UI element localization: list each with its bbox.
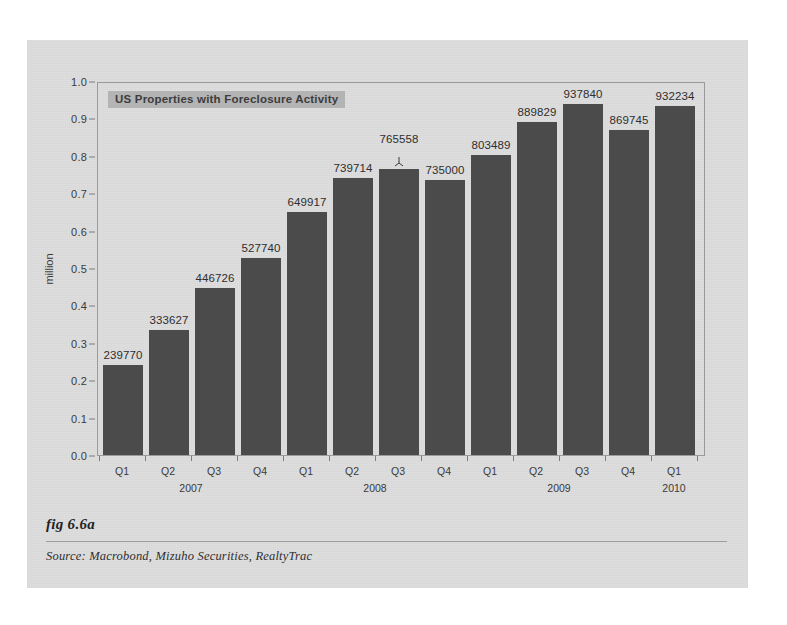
y-tick-mark <box>89 156 95 157</box>
bar-slot: 932234 <box>655 81 695 455</box>
bar-value-label: 527740 <box>242 242 281 254</box>
y-tick-mark <box>89 82 95 83</box>
chart-plot-frame: 2397703336274467265277406499177397147655… <box>97 82 705 456</box>
x-tick-mark <box>283 456 284 461</box>
x-tick-mark <box>605 456 606 461</box>
bar-value-label: 739714 <box>334 162 373 174</box>
bar[interactable] <box>103 365 143 455</box>
x-tick-mark <box>329 456 330 461</box>
y-tick-mark <box>89 269 95 270</box>
bar-slot: 333627 <box>149 81 189 455</box>
y-tick-mark <box>89 194 95 195</box>
bar[interactable] <box>471 155 511 456</box>
bar-slot: 803489 <box>471 81 511 455</box>
bar-slot: 649917 <box>287 81 327 455</box>
x-axis-year-label: 2009 <box>547 482 570 494</box>
bar-value-label: 803489 <box>472 139 511 151</box>
x-axis: Q1Q2Q3Q4Q1Q2Q3Q4Q1Q2Q3Q4Q120072008200920… <box>97 456 705 516</box>
bar-slot: 869745 <box>609 81 649 455</box>
source-line: Source: Macrobond, Mizuho Securities, Re… <box>46 549 312 564</box>
y-tick-label: 0.0 <box>71 450 87 462</box>
x-tick-mark <box>375 456 376 461</box>
x-tick-mark <box>191 456 192 461</box>
bar-slot: 765558 <box>379 81 419 455</box>
bar-value-label: 333627 <box>150 314 189 326</box>
bar[interactable] <box>655 106 695 455</box>
x-tick-label-quarter: Q1 <box>483 465 497 477</box>
bar-value-label: 239770 <box>104 349 143 361</box>
x-tick-label-quarter: Q3 <box>391 465 405 477</box>
x-tick-mark <box>421 456 422 461</box>
figure-page: million 0.00.10.20.30.40.50.60.70.80.91.… <box>27 40 748 588</box>
bar-slot: 446726 <box>195 81 235 455</box>
y-tick-mark <box>89 119 95 120</box>
x-tick-label-quarter: Q1 <box>299 465 313 477</box>
x-tick-label-quarter: Q4 <box>621 465 635 477</box>
chart-title-legend: US Properties with Foreclosure Activity <box>108 91 345 108</box>
x-tick-label-quarter: Q2 <box>161 465 175 477</box>
bar-value-label: 932234 <box>656 90 695 102</box>
x-tick-mark <box>651 456 652 461</box>
y-tick-label: 0.2 <box>71 375 87 387</box>
x-tick-mark <box>513 456 514 461</box>
x-tick-mark <box>145 456 146 461</box>
x-tick-mark <box>559 456 560 461</box>
bar-value-label: 649917 <box>288 196 327 208</box>
bar[interactable] <box>149 330 189 455</box>
y-tick-label: 0.4 <box>71 300 87 312</box>
x-axis-year-label: 2007 <box>179 482 202 494</box>
bar[interactable] <box>517 122 557 455</box>
bar-slot: 527740 <box>241 81 281 455</box>
y-tick-label: 0.9 <box>71 113 87 125</box>
y-tick-mark <box>89 306 95 307</box>
bar[interactable] <box>425 180 465 455</box>
x-tick-mark <box>99 456 100 461</box>
x-axis-year-label: 2010 <box>662 482 685 494</box>
figure-label: fig 6.6a <box>46 516 95 533</box>
bar-value-label: 869745 <box>610 114 649 126</box>
bar-value-label: 889829 <box>518 106 557 118</box>
x-tick-label-quarter: Q4 <box>437 465 451 477</box>
bar-slot: 739714 <box>333 81 373 455</box>
x-tick-label-quarter: Q2 <box>529 465 543 477</box>
bar[interactable] <box>609 130 649 455</box>
x-axis-year-label: 2008 <box>363 482 386 494</box>
y-tick-mark <box>89 381 95 382</box>
x-tick-label-quarter: Q3 <box>207 465 221 477</box>
x-tick-label-quarter: Q4 <box>253 465 267 477</box>
caption-divider <box>46 541 727 542</box>
y-tick-mark <box>89 418 95 419</box>
bar-slot: 889829 <box>517 81 557 455</box>
plot-area: 2397703336274467265277406499177397147655… <box>98 83 704 455</box>
y-tick-mark <box>89 343 95 344</box>
bar[interactable] <box>333 178 373 455</box>
bar-value-label: 765558 <box>380 133 419 145</box>
x-tick-label-quarter: Q2 <box>345 465 359 477</box>
x-tick-mark <box>237 456 238 461</box>
y-tick-mark <box>89 231 95 232</box>
bar[interactable] <box>241 258 281 455</box>
x-tick-mark <box>697 456 698 461</box>
bar-value-label: 735000 <box>426 164 465 176</box>
y-tick-label: 0.8 <box>71 151 87 163</box>
leader-pointer-icon <box>394 157 405 167</box>
bar[interactable] <box>287 212 327 455</box>
x-tick-mark <box>467 456 468 461</box>
bar[interactable] <box>195 288 235 455</box>
y-tick-label: 0.1 <box>71 413 87 425</box>
bar-slot: 937840 <box>563 81 603 455</box>
y-axis: million 0.00.10.20.30.40.50.60.70.80.91.… <box>27 82 97 456</box>
bar-value-label: 446726 <box>196 272 235 284</box>
y-tick-label: 1.0 <box>71 76 87 88</box>
y-tick-label: 0.6 <box>71 226 87 238</box>
y-tick-label: 0.5 <box>71 263 87 275</box>
bar[interactable] <box>563 104 603 455</box>
bar[interactable] <box>379 169 419 455</box>
x-tick-label-quarter: Q1 <box>667 465 681 477</box>
bar-slot: 239770 <box>103 81 143 455</box>
x-tick-label-quarter: Q1 <box>115 465 129 477</box>
y-axis-title: million <box>43 253 55 284</box>
y-tick-mark <box>89 456 95 457</box>
y-tick-label: 0.3 <box>71 338 87 350</box>
y-tick-label: 0.7 <box>71 188 87 200</box>
